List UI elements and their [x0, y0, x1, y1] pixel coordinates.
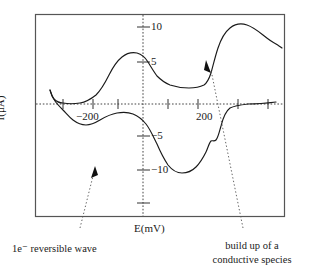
x-axis-title: E(mV) — [134, 222, 165, 234]
x-tick-label-minus-200: −200 — [76, 110, 99, 122]
annotation-reversible-wave: 1e⁻ reversible wave — [12, 243, 97, 255]
right-annotation-leader — [211, 70, 243, 228]
plot-frame — [36, 15, 285, 217]
y-axis-title: I(μA) — [0, 96, 6, 121]
right-annotation-arrowhead — [204, 60, 211, 73]
y-tick-label-minus-5: −5 — [151, 129, 163, 141]
cyclic-voltammogram-figure: 10 5 −5 −10 −200 200 I(μA) E(mV) 1e⁻ rev… — [0, 0, 310, 280]
left-annotation-leader — [80, 172, 94, 228]
y-tick-label-minus-10: −10 — [151, 163, 168, 175]
y-tick-label-10: 10 — [151, 20, 162, 32]
left-annotation-arrowhead — [91, 166, 98, 178]
annotation-conductive-species-line1: build up of a — [196, 240, 308, 252]
y-tick-label-5: 5 — [151, 55, 157, 67]
cv-trace-reverse — [50, 24, 282, 104]
annotation-conductive-species-line2: conductive species — [196, 254, 308, 266]
x-tick-label-200: 200 — [196, 110, 213, 122]
y-axis-title-wrap: I(μA) — [2, 96, 32, 126]
